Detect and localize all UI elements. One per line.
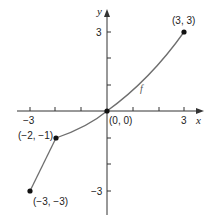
y-axis-label: y bbox=[96, 5, 102, 17]
point-label-neg2: (−2, −1) bbox=[18, 130, 53, 141]
function-graph: −3 3 x 3 −3 y f (−3, −3) (−2, −1) (0, 0)… bbox=[0, 0, 212, 222]
point-origin bbox=[104, 108, 109, 113]
point-label-3: (3, 3) bbox=[172, 15, 195, 26]
y-tick-neg3: −3 bbox=[91, 186, 103, 197]
point-neg2-neg1 bbox=[53, 135, 58, 140]
point-neg3-neg3 bbox=[27, 188, 32, 193]
function-label: f bbox=[140, 83, 144, 94]
y-tick-3: 3 bbox=[96, 27, 102, 38]
y-axis-arrow-icon bbox=[104, 9, 110, 17]
x-tick-neg3: −3 bbox=[23, 115, 35, 126]
point-3-3 bbox=[181, 29, 186, 34]
x-axis-label: x bbox=[195, 114, 201, 126]
point-label-neg3: (−3, −3) bbox=[33, 196, 68, 207]
point-label-origin: (0, 0) bbox=[109, 115, 132, 126]
x-tick-3: 3 bbox=[181, 115, 187, 126]
